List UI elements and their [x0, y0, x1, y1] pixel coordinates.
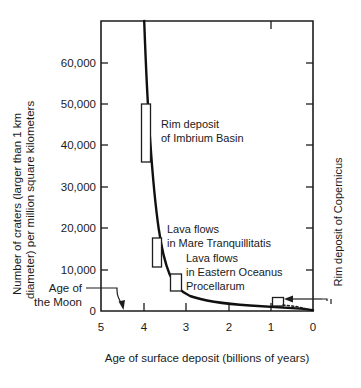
y-tick-label: 20,000 — [61, 222, 96, 234]
y-tick-label: 50,000 — [61, 98, 96, 110]
x-axis-ticks — [144, 303, 271, 311]
annotation-imbrium: Rim deposit of Imbrium Basin — [161, 118, 244, 144]
age-of-moon-arrow-head — [119, 300, 126, 310]
annotation-imbrium-line2: of Imbrium Basin — [161, 132, 244, 144]
crater-density-chart: 60,000 50,000 40,000 30,000 20,000 10,00… — [0, 0, 361, 388]
age-of-moon-line2: the Moon — [34, 296, 82, 308]
x-tick-label: 2 — [226, 321, 232, 333]
y-axis-title-line1: Number of craters (larger than 1 km — [11, 113, 23, 295]
y-tick-label: 40,000 — [61, 139, 96, 151]
chart-svg: 60,000 50,000 40,000 30,000 20,000 10,00… — [0, 0, 361, 388]
y-tick-label: 60,000 — [61, 57, 96, 69]
y-tick-labels: 60,000 50,000 40,000 30,000 20,000 10,00… — [61, 57, 96, 317]
age-of-moon-leader — [86, 288, 122, 304]
x-tick-label: 0 — [310, 321, 316, 333]
annotation-tranquillitatis: Lava flows in Mare Tranquillitatis — [167, 223, 271, 249]
y-axis-title-line2: diameter) per million square kilometers — [24, 101, 36, 299]
y-axis-title: Number of craters (larger than 1 km diam… — [11, 101, 36, 299]
annotation-tranquillitatis-line1: Lava flows — [167, 223, 219, 235]
annotation-procellarum-line2: in Eastern Oceanus — [186, 266, 283, 278]
data-box-tranquillitatis — [153, 238, 162, 267]
right-axis-ticks — [306, 63, 313, 270]
annotation-procellarum: Lava flows in Eastern Oceanus Procellaru… — [186, 252, 283, 292]
data-box-imbrium — [142, 104, 151, 162]
annotation-imbrium-line1: Rim deposit — [161, 118, 219, 130]
age-of-moon-line1: Age of — [49, 282, 83, 294]
y-axis-ticks — [101, 63, 108, 270]
y-tick-label: 0 — [90, 305, 96, 317]
copernicus-leader-line — [322, 299, 327, 301]
annotation-age-of-moon: Age of the Moon — [34, 282, 125, 310]
x-tick-label: 5 — [98, 321, 104, 333]
x-axis-title: Age of surface deposit (billions of year… — [105, 352, 310, 364]
data-box-copernicus — [273, 298, 284, 307]
x-tick-label: 1 — [268, 321, 274, 333]
x-tick-labels: 5 4 3 2 1 0 — [98, 321, 316, 333]
annotation-procellarum-line3: Procellarum — [186, 280, 245, 292]
data-box-procellarum — [171, 274, 182, 291]
x-tick-label: 3 — [183, 321, 189, 333]
annotation-procellarum-line1: Lava flows — [186, 252, 238, 264]
copernicus-arrow-head — [284, 296, 293, 303]
x-tick-label: 4 — [141, 321, 148, 333]
y-tick-label: 10,000 — [61, 264, 96, 276]
annotation-copernicus-label: Rim deposit of Copernicus — [332, 157, 344, 287]
annotation-tranquillitatis-line2: in Mare Tranquillitatis — [167, 237, 271, 249]
y-tick-label: 30,000 — [61, 181, 96, 193]
